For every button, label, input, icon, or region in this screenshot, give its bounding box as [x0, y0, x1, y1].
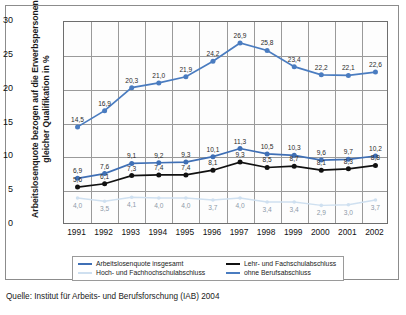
- data-point: [211, 198, 215, 202]
- y-tick-30: 30: [0, 15, 13, 25]
- source-note: Quelle: Institut für Arbeits- und Berufs…: [6, 292, 219, 301]
- data-point: [156, 172, 161, 177]
- data-point: [374, 198, 378, 202]
- data-label: 22,6: [362, 61, 388, 68]
- y-tick-25: 25: [0, 49, 13, 59]
- data-label: 9,2: [146, 152, 172, 159]
- legend-swatch-icon: [78, 263, 92, 265]
- data-label: 9,1: [119, 152, 145, 159]
- data-point: [157, 196, 161, 200]
- x-tick-2001: 2001: [332, 227, 362, 237]
- data-point: [103, 200, 107, 204]
- data-point: [292, 164, 297, 169]
- x-tick-1994: 1994: [143, 227, 173, 237]
- legend-item: Hoch- und Fachhochschulabschluss: [78, 269, 226, 276]
- data-point: [347, 203, 351, 207]
- data-label: 10,2: [362, 145, 388, 152]
- data-point: [75, 124, 80, 129]
- data-label: 22,1: [335, 64, 361, 71]
- x-tick-1999: 1999: [278, 227, 308, 237]
- data-point: [265, 165, 270, 170]
- data-label: 24,2: [200, 50, 226, 57]
- data-label: 2,9: [308, 209, 334, 216]
- data-point: [183, 74, 188, 79]
- data-label: 4,0: [65, 202, 91, 209]
- data-label: 8,1: [308, 159, 334, 166]
- data-label: 16,9: [92, 100, 118, 107]
- data-label: 26,9: [227, 32, 253, 39]
- data-label: 3,4: [281, 206, 307, 213]
- data-point: [346, 166, 351, 171]
- data-point: [129, 85, 134, 90]
- y-tick-15: 15: [0, 117, 13, 127]
- data-label: 6,9: [65, 167, 91, 174]
- legend-label: ohne Berufsabschluss: [244, 269, 311, 276]
- data-label: 9,7: [335, 148, 361, 155]
- data-label: 21,0: [146, 72, 172, 79]
- x-tick-1991: 1991: [62, 227, 92, 237]
- x-tick-1998: 1998: [251, 227, 281, 237]
- data-label: 3,7: [362, 204, 388, 211]
- data-label: 3,7: [200, 204, 226, 211]
- data-point: [156, 80, 161, 85]
- data-point: [265, 200, 269, 204]
- data-label: 21,9: [173, 66, 199, 73]
- x-tick-2002: 2002: [359, 227, 389, 237]
- legend-item: Arbeitslosenquote insgesamt: [78, 260, 226, 267]
- data-point: [319, 72, 324, 77]
- data-point: [238, 160, 243, 165]
- data-label: 8,8: [362, 154, 388, 161]
- legend-swatch-icon: [226, 272, 240, 274]
- data-point: [129, 173, 134, 178]
- data-label: 3,4: [254, 206, 280, 213]
- data-label: 3,0: [335, 209, 361, 216]
- data-label: 4,1: [119, 201, 145, 208]
- series-line: [78, 43, 376, 127]
- data-label: 4,0: [227, 202, 253, 209]
- legend-label: Hoch- und Fachhochschulabschluss: [96, 269, 205, 276]
- data-point: [373, 163, 378, 168]
- x-tick-1992: 1992: [89, 227, 119, 237]
- data-point: [183, 172, 188, 177]
- legend-item: Lehr- und Fachschulabschluss: [226, 260, 346, 267]
- chart-legend: Arbeitslosenquote insgesamtLehr- und Fac…: [72, 256, 344, 281]
- data-label: 22,2: [308, 64, 334, 71]
- data-label: 10,3: [281, 144, 307, 151]
- y-tick-5: 5: [0, 184, 13, 194]
- data-label: 8,5: [254, 156, 280, 163]
- data-label: 8,1: [200, 159, 226, 166]
- data-point: [292, 200, 296, 204]
- plot-area: 14,516,920,321,021,924,226,925,823,422,2…: [63, 21, 388, 224]
- data-point: [102, 181, 107, 186]
- y-axis-title: Arbeitslosenquote bezogen auf die Erwerb…: [30, 0, 52, 229]
- figure-frame: Arbeitslosenquote bezogen auf die Erwerb…: [5, 5, 399, 280]
- data-label: 9,6: [308, 149, 334, 156]
- data-point: [319, 168, 324, 173]
- data-label: 8,3: [335, 158, 361, 165]
- data-point: [292, 64, 297, 69]
- data-label: 4,0: [173, 202, 199, 209]
- data-point: [76, 196, 80, 200]
- data-point: [75, 185, 80, 190]
- legend-label: Lehr- und Fachschulabschluss: [244, 260, 336, 267]
- data-point: [346, 73, 351, 78]
- data-label: 8,7: [281, 155, 307, 162]
- data-label: 10,5: [254, 143, 280, 150]
- data-label: 4,0: [146, 202, 172, 209]
- data-point: [265, 48, 270, 53]
- y-tick-0: 0: [0, 218, 13, 228]
- x-tick-1995: 1995: [170, 227, 200, 237]
- data-point: [130, 195, 134, 199]
- data-point: [238, 196, 242, 200]
- data-point: [184, 196, 188, 200]
- data-label: 5,6: [65, 176, 91, 183]
- x-tick-1993: 1993: [116, 227, 146, 237]
- data-label: 7,4: [173, 164, 199, 171]
- legend-label: Arbeitslosenquote insgesamt: [96, 260, 183, 267]
- data-label: 7,3: [119, 165, 145, 172]
- legend-item: ohne Berufsabschluss: [226, 269, 346, 276]
- x-tick-1997: 1997: [224, 227, 254, 237]
- legend-swatch-icon: [226, 263, 240, 265]
- y-tick-10: 10: [0, 150, 13, 160]
- legend-swatch-icon: [78, 272, 92, 274]
